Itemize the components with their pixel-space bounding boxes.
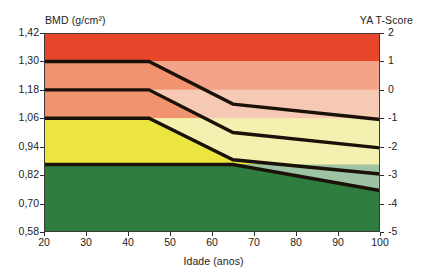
left-tickmark-1,30 bbox=[40, 61, 44, 62]
x-tick-90: 90 bbox=[318, 236, 358, 248]
right-tick-1: 1 bbox=[388, 54, 427, 66]
x-tickmark-20 bbox=[44, 232, 45, 236]
right-tick-2: 2 bbox=[388, 26, 427, 38]
left-tick-1,18: 1,18 bbox=[0, 83, 39, 95]
left-axis-title: BMD (g/cm²) bbox=[45, 14, 106, 26]
right-tickmark-0 bbox=[380, 90, 384, 91]
right-tickmark--2 bbox=[380, 147, 384, 148]
plot-svg bbox=[44, 33, 380, 232]
x-tickmark-50 bbox=[170, 232, 171, 236]
x-tickmark-30 bbox=[86, 232, 87, 236]
left-tickmark-1,06 bbox=[40, 118, 44, 119]
right-tickmark-2 bbox=[380, 33, 384, 34]
x-tickmark-40 bbox=[128, 232, 129, 236]
x-axis-title: Idade (anos) bbox=[0, 255, 427, 267]
left-tick-0,94: 0,94 bbox=[0, 140, 39, 152]
right-tick--2: -2 bbox=[388, 140, 427, 152]
x-tickmark-60 bbox=[212, 232, 213, 236]
left-tick-1,42: 1,42 bbox=[0, 26, 39, 38]
band-red bbox=[44, 33, 380, 61]
left-tickmark-1,18 bbox=[40, 90, 44, 91]
left-tickmark-1,42 bbox=[40, 33, 44, 34]
x-tickmark-80 bbox=[296, 232, 297, 236]
left-tick-0,82: 0,82 bbox=[0, 168, 39, 180]
right-tick--4: -4 bbox=[388, 197, 427, 209]
x-tickmark-100 bbox=[380, 232, 381, 236]
left-tickmark-0,94 bbox=[40, 147, 44, 148]
left-tickmark-0,70 bbox=[40, 204, 44, 205]
x-tickmark-90 bbox=[338, 232, 339, 236]
left-tick-0,70: 0,70 bbox=[0, 197, 39, 209]
x-tick-100: 100 bbox=[360, 236, 400, 248]
x-tick-50: 50 bbox=[150, 236, 190, 248]
plot-area bbox=[44, 33, 380, 232]
x-tick-60: 60 bbox=[192, 236, 232, 248]
right-tickmark--3 bbox=[380, 175, 384, 176]
x-tick-70: 70 bbox=[234, 236, 274, 248]
x-tickmark-70 bbox=[254, 232, 255, 236]
bmd-chart: BMD (g/cm²) YA T-Score Idade (anos) 1,42… bbox=[0, 0, 427, 273]
left-tick-1,06: 1,06 bbox=[0, 111, 39, 123]
x-tick-40: 40 bbox=[108, 236, 148, 248]
right-tickmark--4 bbox=[380, 204, 384, 205]
x-tick-80: 80 bbox=[276, 236, 316, 248]
left-tick-1,30: 1,30 bbox=[0, 54, 39, 66]
right-tick--3: -3 bbox=[388, 168, 427, 180]
x-tick-30: 30 bbox=[66, 236, 106, 248]
right-tickmark-1 bbox=[380, 61, 384, 62]
left-tickmark-0,82 bbox=[40, 175, 44, 176]
right-tick--1: -1 bbox=[388, 111, 427, 123]
right-tick-0: 0 bbox=[388, 83, 427, 95]
right-axis-title: YA T-Score bbox=[360, 14, 413, 26]
right-tickmark--1 bbox=[380, 118, 384, 119]
x-tick-20: 20 bbox=[24, 236, 64, 248]
